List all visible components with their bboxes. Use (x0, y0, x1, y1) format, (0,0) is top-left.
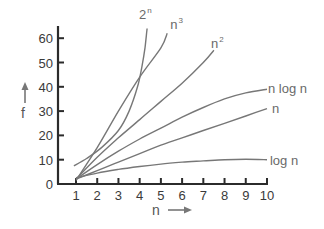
curve-label-n-pow-2: n2 (211, 35, 224, 51)
curve-label-n: n (272, 101, 279, 116)
y-tick-label: 40 (39, 80, 53, 95)
x-axis-label-group: n (152, 202, 192, 218)
y-axis-label: f (21, 105, 25, 121)
right-arrow-head-icon (184, 207, 192, 214)
up-arrow-head-icon (22, 82, 29, 90)
x-tick-label: 10 (260, 188, 274, 203)
y-tick-label: 30 (39, 104, 53, 119)
axes: 010203040506012345678910 (39, 26, 275, 203)
y-tick-label: 0 (46, 177, 53, 192)
x-tick-label: 2 (94, 188, 101, 203)
curve-label-log-n: log n (270, 153, 298, 168)
y-tick-label: 10 (39, 153, 53, 168)
x-tick-label: 6 (178, 188, 185, 203)
curve-label-n-log-n: n log n (268, 81, 307, 96)
curve-label-n-pow-3: n3 (170, 16, 183, 32)
x-tick-label: 8 (221, 188, 228, 203)
x-axis-label: n (152, 202, 160, 218)
x-tick-label: 1 (72, 188, 79, 203)
x-tick-label: 7 (200, 188, 207, 203)
x-tick-label: 4 (136, 188, 143, 203)
x-tick-label: 3 (115, 188, 122, 203)
complexity-chart: f n 010203040506012345678910 2nn3n2n log… (0, 0, 324, 229)
y-tick-label: 20 (39, 128, 53, 143)
curve-log-n (76, 159, 267, 178)
x-tick-label: 5 (157, 188, 164, 203)
y-tick-label: 50 (39, 56, 53, 71)
y-tick-label: 60 (39, 31, 53, 46)
y-axis-label-group: f (21, 82, 29, 121)
curves (74, 29, 267, 181)
curve-label-2-pow-n: 2n (139, 6, 152, 22)
x-tick-label: 9 (242, 188, 249, 203)
